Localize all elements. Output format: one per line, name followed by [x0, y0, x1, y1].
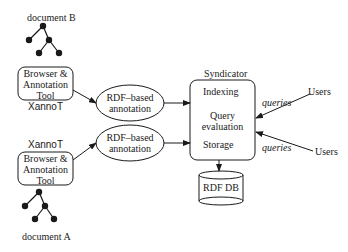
syndicator-title: Syndicator — [204, 68, 247, 79]
browser-tool-bottom-line1: Browser & — [18, 153, 73, 164]
syndicator-query-evaluation: Query evaluation — [190, 110, 255, 132]
document-b-label: document B — [27, 12, 76, 23]
browser-tool-top-text: Browser & Annotation Tool — [18, 68, 73, 101]
browser-tool-top-line1: Browser & — [18, 68, 73, 79]
syndicator-query-line2: evaluation — [190, 121, 255, 132]
browser-tool-top-line3: Tool — [18, 90, 73, 101]
browser-tool-bottom-line2: Annotation — [18, 164, 73, 175]
rdf-annotation-top-line1: RDF–based — [96, 92, 164, 103]
queries-bottom-label: queries — [262, 142, 291, 153]
document-b-tree-icon — [26, 23, 61, 55]
users-bottom-label: Users — [315, 146, 338, 157]
users-top-label: Users — [308, 86, 331, 97]
browser-tool-bottom-line3: Tool — [18, 175, 73, 186]
xannot-label-top: XannoT — [18, 101, 73, 112]
browser-tool-bottom-text: Browser & Annotation Tool — [18, 153, 73, 186]
browser-tool-top-line2: Annotation — [18, 79, 73, 90]
syndicator-indexing: Indexing — [203, 86, 239, 97]
syndicator-storage: Storage — [203, 139, 234, 150]
diagram-canvas — [0, 0, 348, 252]
rdf-annotation-top-line2: annotation — [96, 103, 164, 114]
syndicator-query-line1: Query — [190, 110, 255, 121]
document-a-label: document A — [22, 231, 71, 242]
rdf-annotation-bottom-line2: annotation — [96, 143, 164, 154]
document-a-tree-icon — [22, 189, 56, 221]
rdf-db-label: RDF DB — [199, 182, 243, 193]
rdf-annotation-bottom-line1: RDF–based — [96, 132, 164, 143]
queries-top-label: queries — [262, 97, 291, 108]
xannot-label-bottom: XannoT — [18, 139, 73, 150]
rdf-annotation-bottom-text: RDF–based annotation — [96, 132, 164, 154]
rdf-annotation-top-text: RDF–based annotation — [96, 92, 164, 114]
